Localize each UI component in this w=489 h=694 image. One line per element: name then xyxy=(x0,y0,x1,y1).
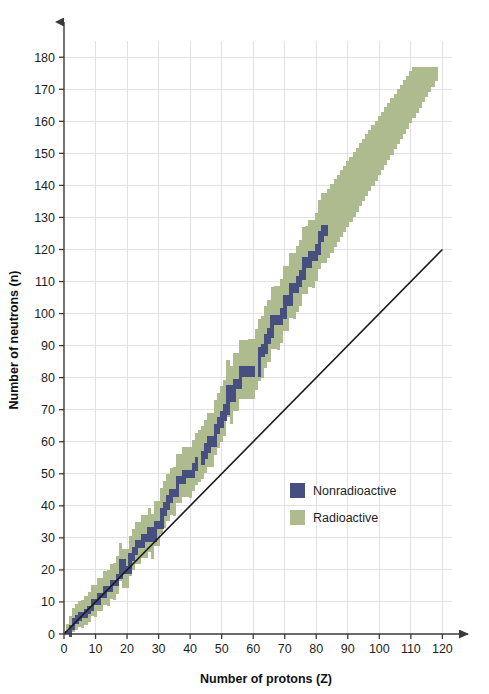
y-tick-label: 20 xyxy=(41,563,55,577)
y-tick-label: 10 xyxy=(41,595,55,609)
x-tick-label: 50 xyxy=(215,642,229,656)
legend-label-nonradioactive: Nonradioactive xyxy=(313,484,396,498)
x-tick-label: 70 xyxy=(278,642,292,656)
y-tick-label: 160 xyxy=(34,115,55,129)
y-tick-label: 70 xyxy=(41,403,55,417)
x-tick-label: 10 xyxy=(89,642,103,656)
y-tick-label: 100 xyxy=(34,307,55,321)
x-tick-label: 90 xyxy=(341,642,355,656)
y-tick-label: 80 xyxy=(41,371,55,385)
y-tick-label: 40 xyxy=(41,499,55,513)
y-tick-label: 150 xyxy=(34,147,55,161)
y-tick-label: 90 xyxy=(41,339,55,353)
y-tick-label: 180 xyxy=(34,51,55,65)
x-tick-label: 110 xyxy=(401,642,421,656)
nuclide-stability-chart: 0102030405060708090100110120130140150160… xyxy=(0,0,489,694)
x-tick-label: 60 xyxy=(246,642,260,656)
y-tick-label: 50 xyxy=(41,467,55,481)
x-tick-label: 40 xyxy=(183,642,197,656)
y-tick-label: 0 xyxy=(48,628,55,642)
x-tick-label: 0 xyxy=(61,642,68,656)
x-tick-label: 80 xyxy=(309,642,323,656)
y-tick-label: 120 xyxy=(34,243,55,257)
y-tick-label: 110 xyxy=(35,275,55,289)
y-tick-label: 170 xyxy=(34,83,55,97)
y-tick-label: 60 xyxy=(41,435,55,449)
y-tick-label: 130 xyxy=(34,211,55,225)
y-tick-label: 140 xyxy=(34,179,55,193)
x-tick-label: 100 xyxy=(369,642,390,656)
y-axis-title: Number of neutrons (n) xyxy=(7,271,21,410)
chart-canvas: 0102030405060708090100110120130140150160… xyxy=(0,0,489,694)
x-axis-title: Number of protons (Z) xyxy=(200,672,332,686)
y-tick-label: 30 xyxy=(41,531,55,545)
x-tick-label: 120 xyxy=(432,642,453,656)
legend-swatch-nonradioactive xyxy=(290,483,305,498)
x-tick-label: 30 xyxy=(152,642,166,656)
legend-swatch-radioactive xyxy=(290,510,305,525)
legend-label-radioactive: Radioactive xyxy=(313,511,378,525)
x-tick-label: 20 xyxy=(120,642,134,656)
